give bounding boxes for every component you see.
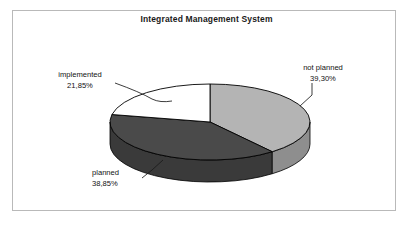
callout-implemented-name: implemented xyxy=(42,70,118,81)
callout-implemented: implemented 21,85% xyxy=(42,70,118,91)
callout-not-planned-name: not planned xyxy=(287,63,359,74)
callout-implemented-value: 21,85% xyxy=(42,81,118,92)
callout-planned-value: 38,85% xyxy=(92,179,162,190)
callout-not-planned-value: 39,30% xyxy=(287,74,359,85)
pie-chart-figure: Integrated Management System not planned… xyxy=(0,0,413,233)
chart-frame xyxy=(12,10,396,211)
callout-planned-name: planned xyxy=(92,168,162,179)
callout-not-planned: not planned 39,30% xyxy=(287,63,359,84)
chart-title: Integrated Management System xyxy=(0,14,413,24)
callout-planned: planned 38,85% xyxy=(92,168,162,189)
